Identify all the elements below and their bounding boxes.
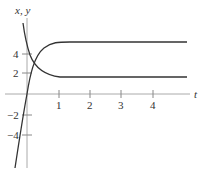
- chart: 1 2 3 4 4 2 −2 −4 x, y t: [0, 0, 202, 171]
- tick-label-x-2: 2: [87, 99, 93, 111]
- tick-label-x-4: 4: [150, 99, 156, 111]
- axis-label-x: t: [194, 88, 198, 100]
- tick-label-x-1: 1: [56, 99, 62, 111]
- series-y-curve: [23, 23, 187, 77]
- tick-label-x-3: 3: [118, 99, 124, 111]
- series-x-curve: [15, 42, 187, 168]
- tick-label-y-m4: −4: [7, 129, 19, 141]
- tick-label-y-m2: −2: [7, 109, 19, 121]
- axis-label-y: x, y: [14, 4, 30, 16]
- tick-label-y-4: 4: [13, 48, 19, 60]
- tick-label-y-2: 2: [13, 67, 19, 79]
